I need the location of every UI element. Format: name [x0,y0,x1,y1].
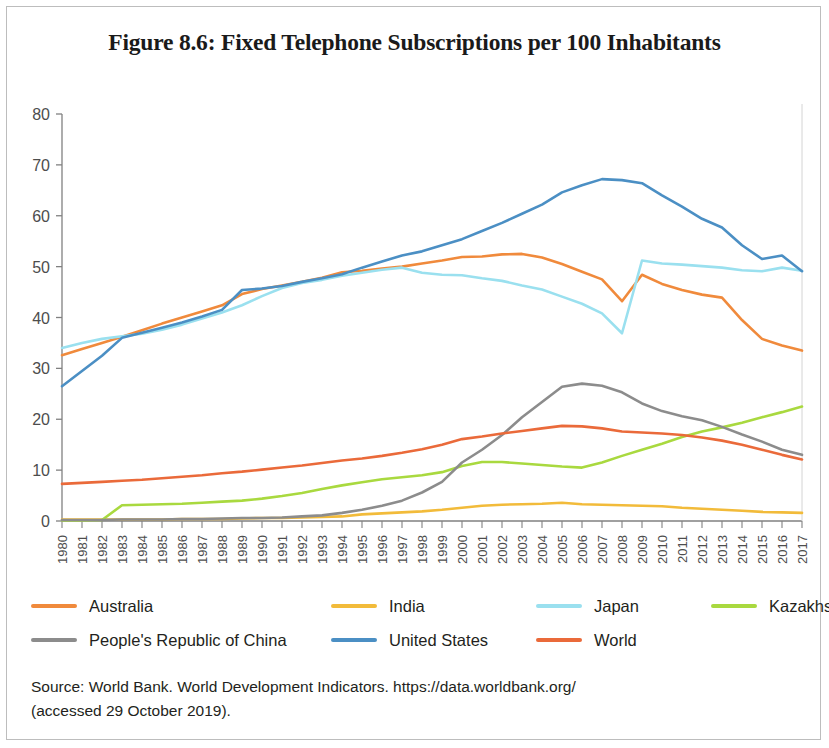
svg-text:1981: 1981 [75,535,90,564]
svg-text:1986: 1986 [175,535,190,564]
svg-text:10: 10 [32,462,50,479]
svg-text:2014: 2014 [735,535,750,564]
chart-legend: AustraliaIndiaJapanKazakhstan People's R… [31,591,821,663]
legend-label: India [389,597,425,616]
svg-text:1983: 1983 [115,535,130,564]
svg-text:2010: 2010 [655,535,670,564]
svg-text:2002: 2002 [495,535,510,564]
legend-row-2: People's Republic of ChinaUnited StatesW… [31,625,821,655]
svg-text:1998: 1998 [415,535,430,564]
legend-label: Australia [89,597,153,616]
source-line-2: (accessed 29 October 2019). [31,699,801,723]
legend-item-people-s-republic-of-china: People's Republic of China [31,625,287,655]
svg-text:40: 40 [32,310,50,327]
svg-text:1993: 1993 [315,535,330,564]
svg-text:2000: 2000 [455,535,470,564]
figure-frame: Figure 8.6: Fixed Telephone Subscription… [6,6,821,740]
legend-item-world: World [536,625,637,655]
svg-text:1987: 1987 [195,535,210,564]
svg-text:2012: 2012 [695,535,710,564]
svg-text:1994: 1994 [335,535,350,564]
svg-text:1982: 1982 [95,535,110,564]
svg-text:50: 50 [32,259,50,276]
legend-item-kazakhstan: Kazakhstan [711,591,829,621]
svg-text:2013: 2013 [715,535,730,564]
legend-item-japan: Japan [536,591,639,621]
svg-text:2009: 2009 [635,535,650,564]
series-lines [62,179,802,520]
source-line-1: Source: World Bank. World Development In… [31,675,801,699]
svg-text:1999: 1999 [435,535,450,564]
svg-text:1985: 1985 [155,535,170,564]
legend-label: World [594,631,637,650]
svg-text:30: 30 [32,360,50,377]
legend-item-united-states: United States [331,625,488,655]
chart-plot-area: 01020304050607080 1980198119821983198419… [7,65,822,585]
legend-swatch-icon [711,604,757,608]
svg-text:20: 20 [32,411,50,428]
source-note: Source: World Bank. World Development In… [31,675,801,723]
svg-text:1991: 1991 [275,535,290,564]
svg-text:1989: 1989 [235,535,250,564]
svg-text:1990: 1990 [255,535,270,564]
svg-text:60: 60 [32,208,50,225]
svg-text:2006: 2006 [575,535,590,564]
svg-text:1988: 1988 [215,535,230,564]
svg-text:2001: 2001 [475,535,490,564]
legend-swatch-icon [31,604,77,608]
svg-text:1995: 1995 [355,535,370,564]
svg-text:0: 0 [41,513,50,530]
svg-text:1984: 1984 [135,535,150,564]
svg-text:1980: 1980 [55,535,70,564]
legend-swatch-icon [536,604,582,608]
svg-text:2011: 2011 [675,535,690,563]
svg-text:1992: 1992 [295,535,310,564]
svg-text:70: 70 [32,157,50,174]
legend-label: Japan [594,597,639,616]
legend-swatch-icon [31,638,77,642]
legend-item-india: India [331,591,425,621]
page-title: Figure 8.6: Fixed Telephone Subscription… [7,29,822,56]
svg-text:2008: 2008 [615,535,630,564]
legend-label: People's Republic of China [89,631,287,650]
line-chart-svg: 01020304050607080 1980198119821983198419… [7,65,822,585]
legend-swatch-icon [536,638,582,642]
svg-text:1997: 1997 [395,535,410,564]
legend-row-1: AustraliaIndiaJapanKazakhstan [31,591,821,621]
svg-text:2004: 2004 [535,535,550,564]
svg-text:80: 80 [32,106,50,123]
y-axis: 01020304050607080 [32,106,62,530]
legend-swatch-icon [331,604,377,608]
svg-text:1996: 1996 [375,535,390,564]
legend-label: Kazakhstan [769,597,829,616]
svg-text:2005: 2005 [555,535,570,564]
svg-text:2007: 2007 [595,535,610,564]
svg-text:2016: 2016 [775,535,790,564]
legend-label: United States [389,631,488,650]
svg-text:2003: 2003 [515,535,530,564]
x-axis: 1980198119821983198419851986198719881989… [55,104,810,564]
svg-text:2017: 2017 [795,535,810,564]
legend-swatch-icon [331,638,377,642]
legend-item-australia: Australia [31,591,153,621]
svg-text:2015: 2015 [755,535,770,564]
